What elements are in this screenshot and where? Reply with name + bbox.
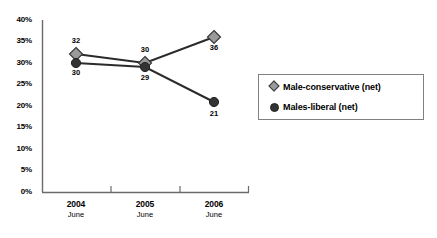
x-axis-year-label: 2004 <box>46 199 106 210</box>
y-axis-tick-label: 40% <box>8 15 32 24</box>
y-axis-tick-label: 35% <box>8 36 32 45</box>
legend-item-male-conservative: Male-conservative (net) <box>267 80 381 94</box>
data-point-males-liberal-2004 <box>71 58 80 67</box>
y-axis-tick-label: 20% <box>8 101 32 110</box>
circle-marker-icon <box>267 100 283 114</box>
x-axis-month-label: June <box>184 210 244 220</box>
data-label-males-liberal-2004: 30 <box>65 69 87 77</box>
y-axis-tick-label: 15% <box>8 122 32 131</box>
data-point-males-liberal-2006 <box>209 97 218 106</box>
data-label-male-conservative-2006: 36 <box>203 44 225 52</box>
legend-item-males-liberal: Males-liberal (net) <box>267 100 358 114</box>
x-axis-category-2006: 2006 June <box>184 199 244 220</box>
x-axis-category-2005: 2005 June <box>115 199 175 220</box>
x-axis-year-label: 2005 <box>115 199 175 210</box>
data-label-male-conservative-2004: 32 <box>65 37 87 45</box>
x-axis-year-label: 2006 <box>184 199 244 210</box>
y-axis-tick-label: 5% <box>8 165 32 174</box>
data-point-males-liberal-2005 <box>140 62 149 71</box>
x-axis-category-2004: 2004 June <box>46 199 106 220</box>
data-label-male-conservative-2005: 30 <box>134 46 156 54</box>
data-point-male-conservative-2006 <box>208 31 221 44</box>
diamond-marker-icon <box>267 80 283 94</box>
legend-label-males-liberal: Males-liberal (net) <box>283 102 358 112</box>
y-axis-tick-label: 0% <box>8 187 32 196</box>
data-label-males-liberal-2006: 21 <box>203 110 225 118</box>
x-axis-month-label: June <box>115 210 175 220</box>
y-axis-tick-label: 30% <box>8 58 32 67</box>
y-axis-tick-label: 25% <box>8 79 32 88</box>
x-axis-month-label: June <box>46 210 106 220</box>
data-label-males-liberal-2005: 29 <box>134 74 156 82</box>
chart-legend: Male-conservative (net) Males-liberal (n… <box>258 74 424 120</box>
legend-label-male-conservative: Male-conservative (net) <box>283 82 381 92</box>
line-chart: 40% 35% 30% 25% 20% 15% 10% 5% 0% 2004 J… <box>0 0 437 238</box>
y-axis-tick-label: 10% <box>8 144 32 153</box>
